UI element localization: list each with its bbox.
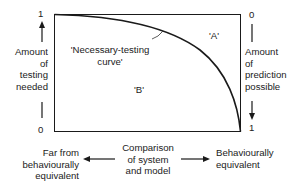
arrow-left-icon — [83, 156, 90, 162]
curve-label: 'Necessary-testing curve' — [60, 44, 160, 67]
right-axis-bottom-value: 1 — [249, 122, 254, 134]
arrow-up-icon — [39, 21, 45, 28]
left-axis-label: Amount of testing needed — [0, 46, 48, 92]
region-a-label: 'A' — [209, 30, 219, 42]
right-axis-top-value: 0 — [249, 9, 254, 21]
region-b-label: 'B' — [134, 84, 144, 96]
curve-leader-line — [152, 31, 163, 39]
left-axis-top-value: 1 — [38, 8, 43, 20]
right-axis-label: Amount of prediction possible — [245, 46, 287, 92]
arrow-right-icon — [203, 156, 210, 162]
bottom-left-label: Far from behaviourally equivalent — [10, 147, 79, 182]
bottom-center-label: Comparison of system and model — [116, 142, 180, 177]
arrow-down-icon — [249, 113, 255, 120]
left-axis-bottom-value: 0 — [38, 124, 43, 136]
bottom-right-label: Behaviourally equivalent — [216, 147, 274, 170]
